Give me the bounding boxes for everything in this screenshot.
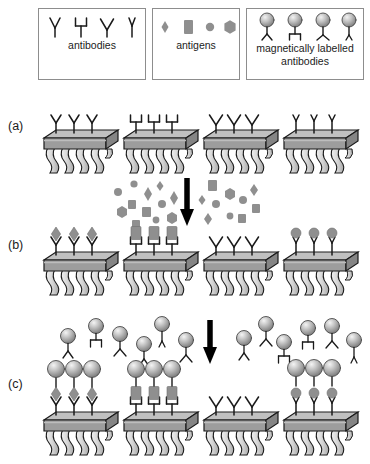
chip-c-1-labelled-antibodies (48, 361, 101, 388)
chip-c-2-antigens (131, 387, 177, 400)
chip-c-2-labelled-antibodies (128, 361, 181, 387)
chip-b-2-antigens (131, 227, 177, 240)
chip-a-3 (204, 115, 278, 173)
labelled-antibody-step-arrow (203, 320, 217, 364)
labelled-antibody-incubation-step (61, 317, 362, 367)
row-a-chips (44, 115, 358, 173)
chip-a-2 (124, 115, 198, 173)
chip-a-4 (284, 115, 358, 173)
row-c-chips (44, 360, 358, 456)
chip-b-2 (124, 227, 198, 296)
figure-canvas: antibodies antigens (0, 0, 370, 464)
assay-artwork (0, 0, 370, 464)
chip-a-1 (44, 115, 118, 173)
row-b-chips (44, 227, 358, 296)
chip-b-4 (284, 228, 358, 295)
chip-c-4 (284, 360, 358, 456)
chip-c-4-antigens (291, 388, 337, 398)
antigen-incubation-step (114, 178, 260, 229)
chip-c-3 (204, 397, 278, 455)
chip-c-1 (44, 361, 118, 456)
chip-b-4-antigens (291, 228, 337, 238)
chip-b-3 (204, 237, 278, 295)
chip-b-1-antigens (51, 227, 96, 241)
chip-c-2 (124, 361, 198, 456)
chip-b-1 (44, 227, 118, 295)
chip-c-1-antigens (51, 387, 96, 401)
chip-c-4-labelled-antibodies (288, 360, 341, 387)
antigen-step-arrow (180, 178, 194, 226)
